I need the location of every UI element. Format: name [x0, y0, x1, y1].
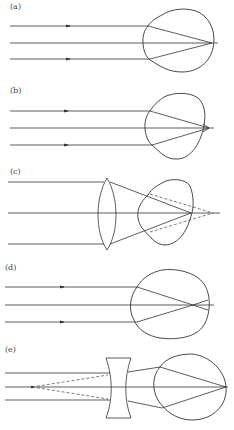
refracted-rays — [128, 367, 226, 408]
eye-outline — [130, 270, 209, 339]
panel-b: (b) — [10, 86, 214, 159]
panel-a: (a) — [10, 2, 218, 72]
eye-outline — [145, 93, 205, 159]
incoming-rays — [5, 373, 228, 400]
panel-e-label: (e) — [5, 345, 16, 354]
panel-e: (e) — [5, 345, 228, 420]
incoming-rays — [10, 26, 218, 59]
panel-b-label: (b) — [10, 86, 21, 95]
converging-lens — [98, 178, 116, 250]
incoming-rays — [5, 287, 214, 322]
diverging-lens — [106, 358, 131, 418]
incoming-rays — [10, 111, 214, 145]
panel-d-label: (d) — [5, 263, 16, 272]
refracted-rays — [148, 26, 212, 59]
panel-a-label: (a) — [10, 2, 21, 11]
panel-d: (d) — [5, 263, 214, 339]
refracted-rays — [137, 287, 208, 322]
panel-c-label: (c) — [10, 167, 21, 176]
eye-outline — [138, 180, 193, 245]
eye-optics-diagram: (a) (b) (c — [0, 0, 234, 430]
panel-c: (c) — [8, 167, 220, 250]
